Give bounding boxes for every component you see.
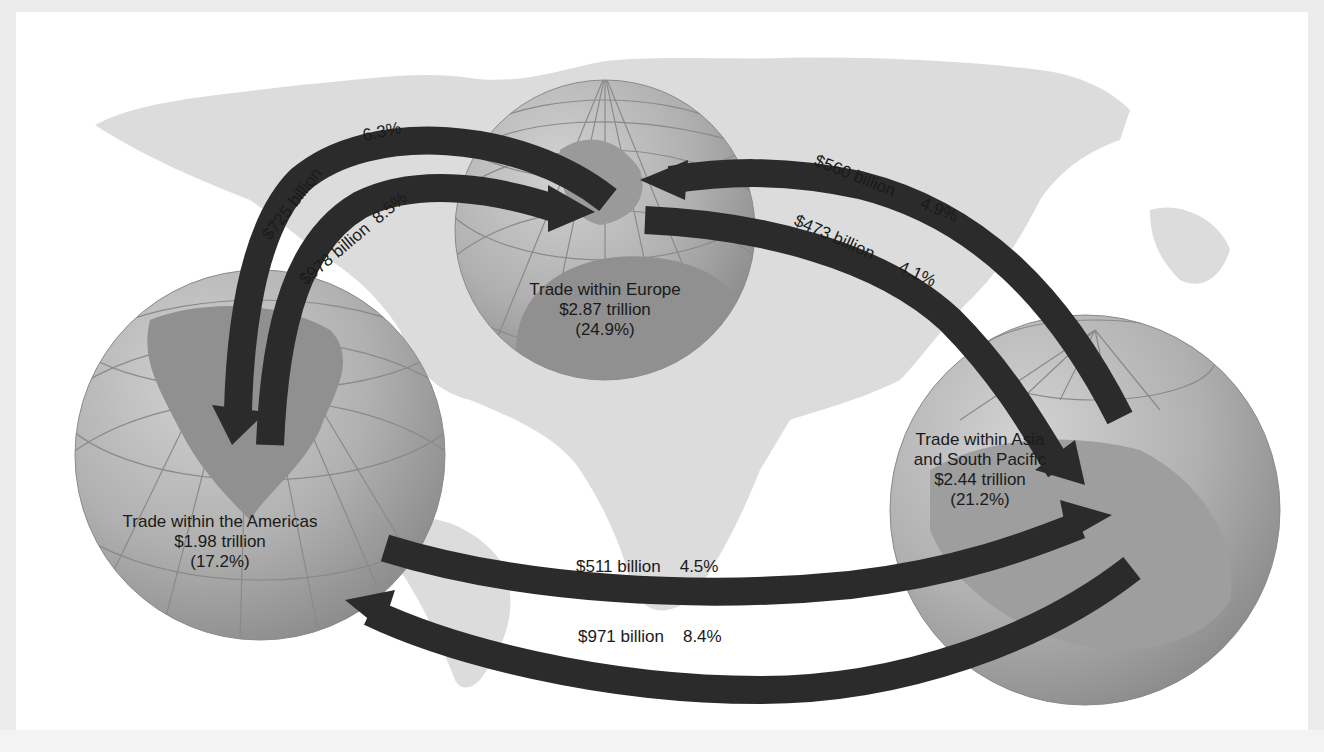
asia-title-line1: Trade within Asia [880, 430, 1080, 450]
asia-title-line2: and South Pacific [880, 450, 1080, 470]
flow-share: 4.5% [680, 557, 719, 576]
asia-share: (21.2%) [880, 490, 1080, 510]
europe-value: $2.87 trillion [480, 300, 730, 320]
flow-label-americas-to-asia: $511 billion 4.5% [576, 557, 718, 577]
americas-label: Trade within the Americas $1.98 trillion… [90, 512, 350, 572]
asia-value: $2.44 trillion [880, 470, 1080, 490]
europe-label: Trade within Europe $2.87 trillion (24.9… [480, 280, 730, 340]
flow-amount: $971 billion [578, 627, 664, 646]
europe-title: Trade within Europe [480, 280, 730, 300]
flow-label-asia-to-americas: $971 billion 8.4% [578, 627, 722, 647]
americas-title: Trade within the Americas [90, 512, 350, 532]
europe-share: (24.9%) [480, 320, 730, 340]
asia-label: Trade within Asia and South Pacific $2.4… [880, 430, 1080, 510]
flow-amount: $511 billion [576, 557, 661, 576]
flow-share: 8.4% [683, 627, 722, 646]
americas-share: (17.2%) [90, 552, 350, 572]
americas-value: $1.98 trillion [90, 532, 350, 552]
